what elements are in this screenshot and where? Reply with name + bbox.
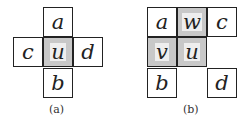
cell-a-center: u <box>43 37 73 67</box>
cell-a-top: a <box>43 7 73 37</box>
caption-b: (b) <box>183 103 199 116</box>
cell-label: d <box>81 40 94 64</box>
cell-b-r1c3: c <box>207 7 237 37</box>
cell-a-left: c <box>13 37 43 67</box>
caption-a: (a) <box>49 103 64 116</box>
cell-b-r2c2: u <box>177 37 207 67</box>
cell-label: w <box>182 13 202 31</box>
cell-b-r1c2: w <box>177 7 207 37</box>
cell-label: a <box>156 10 169 34</box>
cell-a-bottom: b <box>43 68 73 98</box>
cell-label: c <box>22 40 34 64</box>
cell-b-r1c1: a <box>147 7 177 37</box>
cell-label: a <box>52 10 65 34</box>
cell-label: v <box>155 43 169 61</box>
cell-b-r2c1: v <box>147 37 177 67</box>
cell-label: b <box>155 71 168 95</box>
cell-a-right: d <box>73 37 103 67</box>
cell-b-r3c1: b <box>147 68 177 98</box>
cell-b-r3c3: d <box>207 68 237 98</box>
cell-label: b <box>51 71 64 95</box>
cell-label: d <box>215 71 228 95</box>
cell-label: c <box>216 10 228 34</box>
cell-label: u <box>50 43 66 61</box>
cell-label: u <box>184 43 200 61</box>
